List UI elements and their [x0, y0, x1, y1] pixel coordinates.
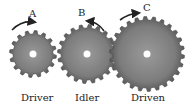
arrow-a-icon [12, 22, 34, 30]
label-idler: Idler [75, 92, 99, 103]
gear-hub-driven [144, 51, 151, 58]
gear-hub-idler [84, 51, 91, 58]
gear-hub-driver [30, 51, 37, 58]
label-driver: Driver [21, 92, 53, 103]
gear-train-diagram: A B C Driver Idler Driven [0, 0, 190, 106]
label-b: B [78, 7, 85, 18]
label-c: C [143, 2, 151, 13]
gear-group [10, 17, 185, 92]
label-driven: Driven [131, 92, 165, 103]
label-a: A [29, 8, 36, 19]
